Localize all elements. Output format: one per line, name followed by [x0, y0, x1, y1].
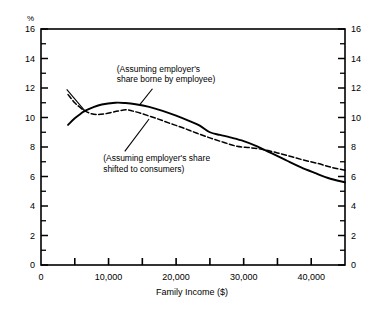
- y-axis-left-tick-label: 12: [25, 83, 35, 93]
- x-axis-tick-label: 0: [38, 272, 43, 282]
- y-axis-unit-label: %: [27, 14, 34, 23]
- y-axis-right-tick-label: 14: [351, 54, 361, 64]
- y-axis-left-tick-label: 14: [25, 54, 35, 64]
- y-axis-left-tick-label: 2: [30, 231, 35, 241]
- y-axis-left-tick-label: 16: [25, 24, 35, 34]
- y-axis-right-tick-label: 0: [351, 260, 356, 270]
- x-axis-tick-label: 20,000: [162, 272, 190, 282]
- y-axis-left-tick-label: 8: [30, 142, 35, 152]
- y-axis-right-tick-label: 4: [351, 201, 356, 211]
- x-axis-title: Family Income ($): [156, 287, 228, 297]
- y-axis-right-tick-label: 2: [351, 231, 356, 241]
- y-axis-left-tick-label: 6: [30, 172, 35, 182]
- annotation-line: shifted to consumers): [103, 164, 184, 174]
- x-axis-tick-label: 40,000: [297, 272, 325, 282]
- y-axis-left-tick-label: 10: [25, 113, 35, 123]
- chart-container: 0246810121416 0246810121416 010,00020,00…: [0, 0, 386, 309]
- annotation-line: share borne by employee): [117, 74, 216, 84]
- annotation-line: (Assuming employer's share: [103, 153, 210, 163]
- y-axis-right-tick-label: 10: [351, 113, 361, 123]
- y-axis-right-tick-label: 16: [351, 24, 361, 34]
- line-chart: 0246810121416 0246810121416 010,00020,00…: [0, 0, 386, 309]
- y-axis-right-tick-label: 8: [351, 142, 356, 152]
- y-axis-right-tick-label: 6: [351, 172, 356, 182]
- y-axis-right-tick-label: 12: [351, 83, 361, 93]
- x-axis-tick-label: 10,000: [95, 272, 123, 282]
- x-axis-tick-label: 30,000: [230, 272, 258, 282]
- y-axis-left-tick-label: 4: [30, 201, 35, 211]
- y-axis-left-tick-label: 0: [30, 260, 35, 270]
- annotation-line: (Assuming employer's: [117, 64, 200, 74]
